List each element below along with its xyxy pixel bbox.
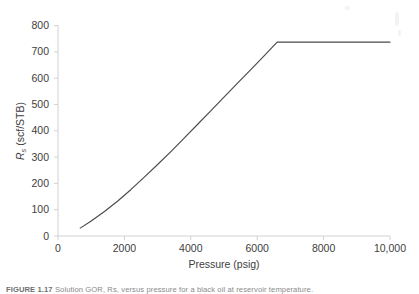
x-tick-label: 0 <box>55 242 61 254</box>
y-tick-label: 200 <box>31 177 49 189</box>
y-tick-label: 500 <box>31 98 49 110</box>
figure-caption: FIGURE 1.17 Solution GOR, Rs, versus pre… <box>6 286 416 294</box>
y-tick-label: 600 <box>31 72 49 84</box>
x-tick-label: 10,000 <box>374 242 406 254</box>
x-tick-label: 6000 <box>246 242 270 254</box>
y-tick-label: 100 <box>31 203 49 215</box>
y-axis-title-unit: (scf/STB) <box>14 102 26 149</box>
chart-plot: 0 100 200 300 400 500 600 700 800 0 2000… <box>0 0 419 294</box>
y-tick-label: 800 <box>31 19 49 31</box>
x-tick-labels: 0 2000 4000 6000 8000 10,000 <box>55 242 406 254</box>
figure-caption-text: Solution GOR, Rs, versus pressure for a … <box>55 286 313 294</box>
y-tick-label: 700 <box>31 45 49 57</box>
x-tick-marks <box>58 236 390 240</box>
x-tick-label: 2000 <box>113 242 137 254</box>
x-tick-label: 8000 <box>312 242 336 254</box>
y-tick-marks <box>54 26 58 236</box>
figure-caption-number: FIGURE 1.17 <box>6 286 53 294</box>
data-series-solution-gor <box>80 42 390 228</box>
y-tick-labels: 0 100 200 300 400 500 600 700 800 <box>31 19 49 241</box>
svg-text:Rs (scf/STB): Rs (scf/STB) <box>14 102 28 160</box>
y-tick-label: 0 <box>43 230 49 242</box>
x-axis-title: Pressure (psig) <box>188 258 259 270</box>
x-tick-label: 4000 <box>179 242 203 254</box>
y-tick-label: 400 <box>31 124 49 136</box>
figure-container: 0 100 200 300 400 500 600 700 800 0 2000… <box>0 0 419 294</box>
y-tick-label: 300 <box>31 151 49 163</box>
y-axis-title: Rs (scf/STB) <box>14 102 28 160</box>
